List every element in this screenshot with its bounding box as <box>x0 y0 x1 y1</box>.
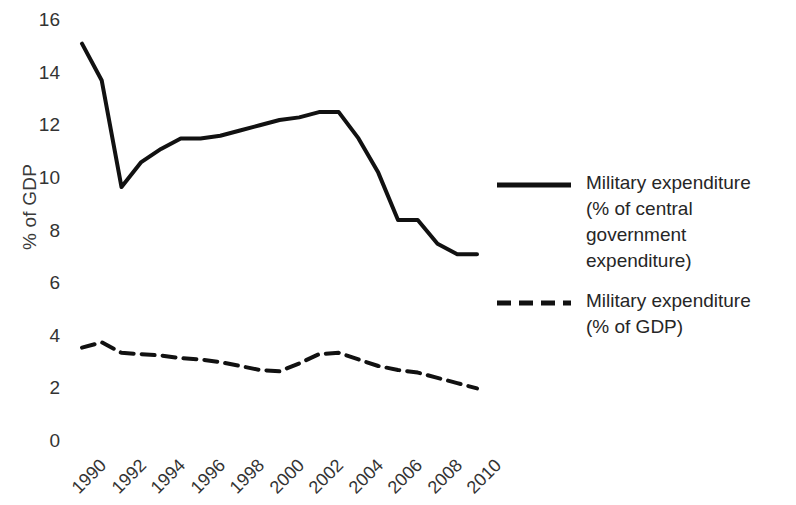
legend-label: Military expenditure (% of central gover… <box>586 170 796 274</box>
legend-label: Military expenditure (% of GDP) <box>586 288 796 340</box>
legend-entry: Military expenditure (% of central gover… <box>496 170 796 274</box>
chart-figure: % of GDP 1614121086420 19901992199419961… <box>0 0 796 505</box>
legend-entry: Military expenditure (% of GDP) <box>496 288 796 340</box>
series-line-1 <box>82 44 477 255</box>
series-line-2 <box>82 342 477 388</box>
legend-swatch-solid-line-icon <box>496 178 572 192</box>
chart-legend: Military expenditure (% of central gover… <box>496 170 796 354</box>
legend-swatch-dashed-line-icon <box>496 296 572 310</box>
